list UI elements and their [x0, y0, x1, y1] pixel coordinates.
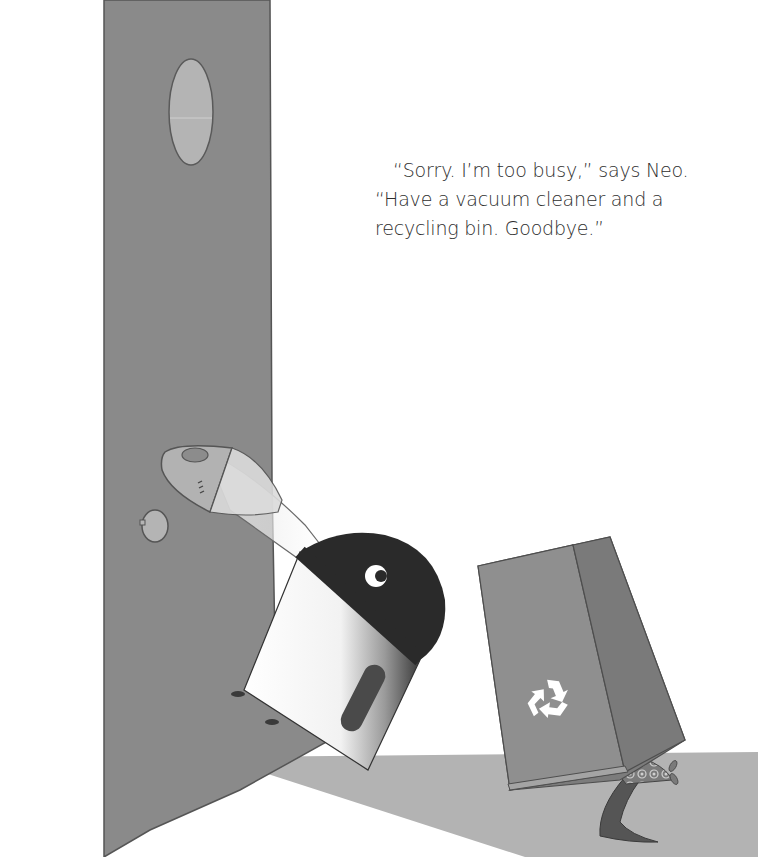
vacuum-foot — [231, 691, 245, 697]
caption-line-2: “Have a vacuum cleaner and a — [375, 185, 695, 214]
door — [104, 0, 330, 857]
caption-line-1: “Sorry. I’m too busy,” says Neo. — [375, 156, 695, 185]
caption-line-3: recycling bin. Goodbye.” — [375, 214, 695, 243]
illustration — [0, 0, 758, 857]
recycling-bin — [478, 537, 685, 790]
floor — [215, 752, 758, 857]
vacuum-foot — [265, 719, 279, 725]
door-window — [169, 59, 213, 165]
story-caption: “Sorry. I’m too busy,” says Neo. “Have a… — [375, 156, 695, 243]
